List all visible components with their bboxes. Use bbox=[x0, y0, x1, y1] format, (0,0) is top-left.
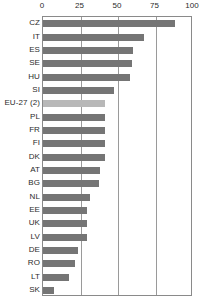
plot-area bbox=[42, 16, 192, 296]
bar-row bbox=[43, 220, 193, 227]
x-tick-label-100: 100 bbox=[185, 1, 199, 11]
bar-rows bbox=[43, 17, 191, 295]
x-tick-label-50: 50 bbox=[112, 1, 121, 11]
bar-bg[interactable] bbox=[43, 180, 99, 187]
bar-ro[interactable] bbox=[43, 260, 75, 267]
category-label-lv: LV bbox=[0, 232, 40, 241]
bar-nl[interactable] bbox=[43, 194, 90, 201]
bar-row bbox=[43, 34, 193, 41]
category-label-hu: HU bbox=[0, 72, 40, 81]
bar-row bbox=[43, 180, 193, 187]
category-label-lt: LT bbox=[0, 272, 40, 281]
bar-row bbox=[43, 207, 193, 214]
bar-sk[interactable] bbox=[43, 287, 54, 294]
bar-it[interactable] bbox=[43, 34, 144, 41]
bar-row bbox=[43, 127, 193, 134]
bar-hu[interactable] bbox=[43, 74, 130, 81]
category-label-eu-27-2: EU-27 (2) bbox=[0, 98, 40, 107]
x-tick-label-25: 25 bbox=[75, 1, 84, 11]
category-label-ee: EE bbox=[0, 205, 40, 214]
bar-lt[interactable] bbox=[43, 274, 69, 281]
category-label-nl: NL bbox=[0, 192, 40, 201]
bar-es[interactable] bbox=[43, 47, 133, 54]
category-label-se: SE bbox=[0, 58, 40, 67]
category-label-de: DE bbox=[0, 245, 40, 254]
bar-at[interactable] bbox=[43, 167, 100, 174]
bar-row bbox=[43, 234, 193, 241]
bar-row bbox=[43, 74, 193, 81]
bar-row bbox=[43, 154, 193, 161]
bar-row bbox=[43, 167, 193, 174]
bar-de[interactable] bbox=[43, 247, 78, 254]
bar-se[interactable] bbox=[43, 60, 132, 67]
category-label-si: SI bbox=[0, 85, 40, 94]
bar-fr[interactable] bbox=[43, 127, 105, 134]
bar-row bbox=[43, 114, 193, 121]
bar-row bbox=[43, 47, 193, 54]
bar-row bbox=[43, 140, 193, 147]
x-axis-tick-labels: 0255075100 bbox=[0, 0, 203, 16]
category-label-fr: FR bbox=[0, 125, 40, 134]
bar-lv[interactable] bbox=[43, 234, 87, 241]
bar-row bbox=[43, 194, 193, 201]
bar-eu-27-2[interactable] bbox=[43, 100, 105, 107]
category-label-bg: BG bbox=[0, 178, 40, 187]
category-label-it: IT bbox=[0, 32, 40, 41]
bar-row bbox=[43, 287, 193, 294]
category-label-dk: DK bbox=[0, 152, 40, 161]
x-tick-label-0: 0 bbox=[40, 1, 45, 11]
bar-row bbox=[43, 274, 193, 281]
bar-si[interactable] bbox=[43, 87, 114, 94]
bar-row bbox=[43, 87, 193, 94]
category-axis-labels: CZITESSEHUSIEU-27 (2)PLFRFIDKATBGNLEEUKL… bbox=[0, 16, 40, 296]
bar-row bbox=[43, 247, 193, 254]
bar-chart: 0255075100 CZITESSEHUSIEU-27 (2)PLFRFIDK… bbox=[0, 0, 203, 302]
category-label-uk: UK bbox=[0, 218, 40, 227]
bar-cz[interactable] bbox=[43, 20, 175, 27]
category-label-cz: CZ bbox=[0, 18, 40, 27]
bar-fi[interactable] bbox=[43, 140, 105, 147]
bar-row bbox=[43, 260, 193, 267]
bar-row bbox=[43, 20, 193, 27]
bar-row bbox=[43, 60, 193, 67]
bar-ee[interactable] bbox=[43, 207, 87, 214]
category-label-es: ES bbox=[0, 45, 40, 54]
bar-dk[interactable] bbox=[43, 154, 105, 161]
category-label-sk: SK bbox=[0, 285, 40, 294]
bar-row bbox=[43, 100, 193, 107]
category-label-pl: PL bbox=[0, 112, 40, 121]
bar-uk[interactable] bbox=[43, 220, 87, 227]
bar-pl[interactable] bbox=[43, 114, 105, 121]
category-label-ro: RO bbox=[0, 258, 40, 267]
x-tick-label-75: 75 bbox=[150, 1, 159, 11]
category-label-at: AT bbox=[0, 165, 40, 174]
category-label-fi: FI bbox=[0, 138, 40, 147]
